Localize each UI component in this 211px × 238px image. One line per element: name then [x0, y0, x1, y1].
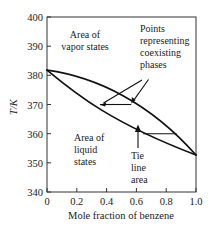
x-tick-label-0.4: 0.4	[100, 196, 114, 207]
points-line-3: coexisting	[140, 47, 181, 58]
tie-line-2: line	[131, 162, 147, 173]
vapor-area-line-1: Area of	[70, 29, 101, 40]
x-axis-tick-labels: 0 0.2 0.4 0.6 0.8 1.0	[44, 196, 202, 207]
liquid-area-line-1: Area of	[74, 132, 105, 143]
y-tick-label-400: 400	[27, 12, 43, 23]
points-line-4: phases	[140, 59, 167, 70]
x-axis-title: Mole fraction of benzene	[68, 210, 174, 221]
phase-diagram-figure: 400 390 380 370 360 350 340 T/K 0 0.2 0.…	[0, 0, 211, 238]
x-tick-label-0.6: 0.6	[130, 196, 143, 207]
y-tick-label-370: 370	[27, 100, 43, 111]
liquid-area-line-2: liquid	[74, 144, 97, 155]
y-axis-title: T/K	[8, 98, 19, 115]
liquid-area-line-3: states	[74, 156, 96, 167]
vapor-area-line-2: vapor states	[61, 41, 109, 52]
y-axis-tick-labels: 400 390 380 370 360 350 340	[27, 12, 43, 198]
y-tick-label-390: 390	[27, 41, 43, 52]
y-tick-label-360: 360	[27, 129, 43, 140]
points-line-2: representing	[140, 35, 189, 46]
points-line-1: Points	[140, 23, 165, 34]
y-tick-label-350: 350	[27, 158, 43, 169]
tie-line-1: Tie	[131, 150, 145, 161]
phase-diagram-svg: 400 390 380 370 360 350 340 T/K 0 0.2 0.…	[0, 0, 211, 238]
x-tick-label-0.2: 0.2	[70, 196, 83, 207]
y-tick-label-380: 380	[27, 70, 43, 81]
y-tick-label-340: 340	[27, 187, 43, 198]
x-tick-label-0: 0	[44, 196, 49, 207]
tie-line-3: area	[131, 174, 148, 185]
x-tick-label-1.0: 1.0	[189, 196, 202, 207]
x-tick-label-0.8: 0.8	[160, 196, 173, 207]
